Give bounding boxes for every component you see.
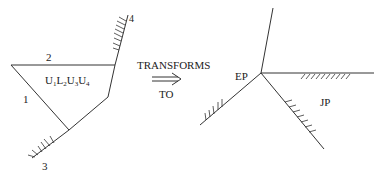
vertex-label-ep: EP — [235, 70, 248, 82]
region-label-u1l2u3u4: U1L2U3U4 — [45, 74, 90, 88]
left-figure — [11, 15, 128, 158]
edge-label-1: 1 — [23, 93, 29, 105]
hatch-edge-lower-left — [205, 99, 222, 120]
svg-text:U1L2U3U4: U1L2U3U4 — [45, 74, 90, 88]
hatch-edge-3 — [28, 136, 54, 157]
edge-lower-left — [200, 73, 261, 125]
hatch-edge-4 — [113, 17, 126, 50]
hatch-edge-lower-right — [285, 100, 316, 132]
edge-label-4: 4 — [129, 13, 134, 24]
double-arrow-icon — [152, 73, 181, 85]
transforms-label: TRANSFORMS — [137, 59, 210, 71]
region-label-jp: JP — [320, 96, 330, 108]
edge-label-3: 3 — [42, 160, 48, 172]
edge-3 — [32, 130, 69, 158]
edge-label-2: 2 — [46, 51, 52, 63]
edge-4 — [115, 15, 128, 65]
edge-right-bend — [108, 65, 115, 97]
edge-lower-right — [69, 97, 108, 130]
edge-up — [261, 8, 273, 73]
right-figure — [200, 8, 374, 149]
diagram-canvas: 2 1 3 4 U1L2U3U4 TRANSFORMS TO — [0, 0, 380, 173]
edge-lower-right — [261, 73, 324, 149]
hatch-edge-right — [301, 74, 350, 79]
to-label: TO — [159, 88, 174, 100]
